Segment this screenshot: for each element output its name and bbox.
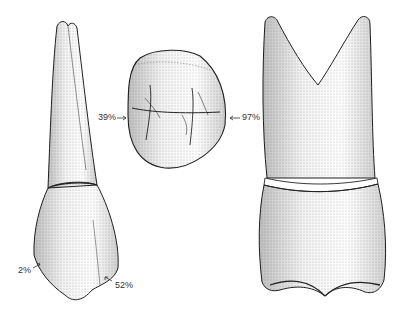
label-occlusal-right: 97%	[242, 112, 260, 122]
tooth-figure: 39% 97% 2% 52%	[0, 0, 402, 315]
label-occlusal-left: 39%	[98, 112, 116, 122]
tooth-illustration	[0, 0, 402, 315]
buccal-view-tooth	[259, 17, 385, 296]
label-crown-left: 2%	[18, 265, 31, 275]
label-crown-right: 52%	[115, 280, 133, 290]
proximal-view-tooth	[34, 22, 118, 300]
occlusal-view-tooth	[128, 50, 226, 168]
